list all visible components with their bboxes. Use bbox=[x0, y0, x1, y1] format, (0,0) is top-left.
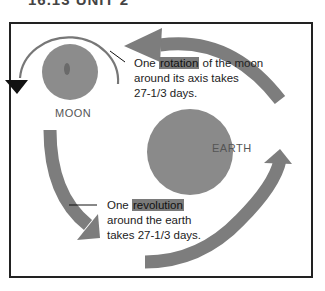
revolution-arrowhead-right-icon bbox=[264, 149, 292, 164]
rotation-note: One rotation of the moon around its axis… bbox=[134, 56, 263, 101]
orbit-diagram bbox=[0, 0, 325, 291]
rotation-arrowhead-icon bbox=[5, 80, 28, 94]
moon-label: MOON bbox=[55, 107, 91, 119]
revolution-highlight: revolution bbox=[132, 199, 184, 211]
moon-circle bbox=[42, 44, 98, 100]
revolution-arrow-left-icon bbox=[50, 130, 88, 225]
earth-label: EARTH bbox=[212, 142, 252, 154]
revolution-note: One revolution around the earth takes 27… bbox=[107, 198, 201, 243]
rotation-highlight: rotation bbox=[159, 57, 199, 69]
moon-crater bbox=[64, 63, 70, 75]
